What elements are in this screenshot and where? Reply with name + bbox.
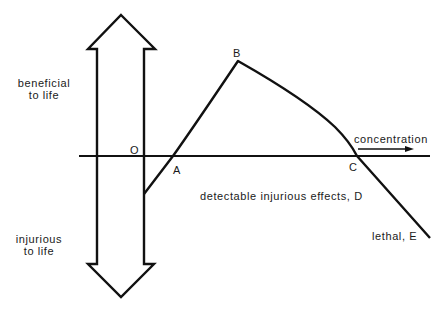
concentration-arrowhead-icon [405, 146, 414, 152]
point-o-label: O [130, 144, 139, 156]
injurious-label-line1: injurious [14, 233, 64, 245]
beneficial-label-line2: to life [14, 89, 74, 101]
effect-concentration-diagram [0, 0, 448, 313]
lethal-label: lethal, E [372, 230, 417, 242]
point-b-label: B [233, 47, 241, 59]
point-a-label: A [173, 164, 181, 176]
beneficial-label: beneficial to life [14, 77, 74, 101]
injurious-label-line2: to life [14, 245, 64, 257]
concentration-label: concentration [354, 133, 428, 145]
beneficial-label-line1: beneficial [14, 77, 74, 89]
detectable-injurious-label: detectable injurious effects, D [200, 190, 363, 202]
injurious-label: injurious to life [14, 233, 64, 257]
point-c-label: C [349, 161, 358, 173]
